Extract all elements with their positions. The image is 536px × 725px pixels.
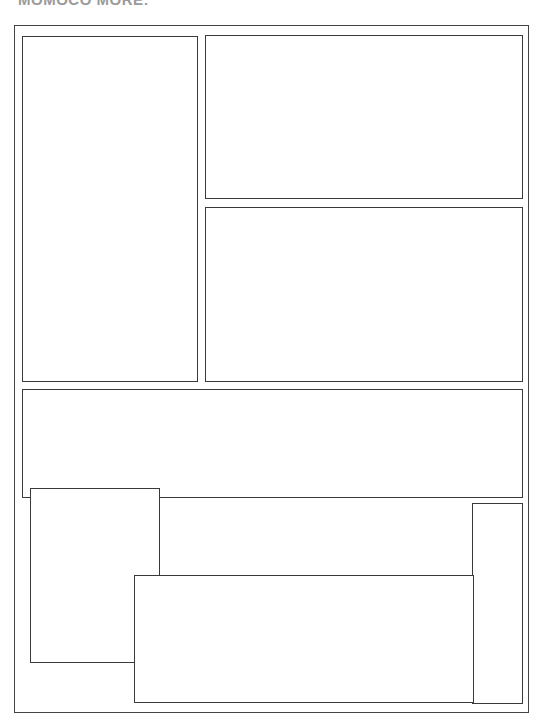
panel-bottom-right-narrow xyxy=(472,503,523,704)
panel-bottom-center-overlap xyxy=(134,575,474,703)
panel-left-tall xyxy=(22,36,198,382)
page-title: MOMOCO MORE: xyxy=(18,0,149,8)
panel-middle-right xyxy=(205,207,523,382)
panel-wide-middle xyxy=(22,389,523,498)
panel-top-right xyxy=(205,35,523,199)
